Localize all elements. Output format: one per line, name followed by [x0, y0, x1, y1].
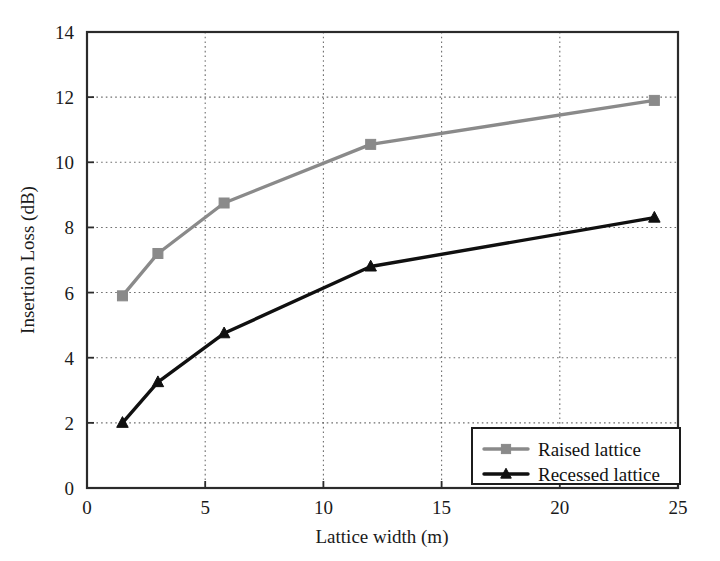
- y-tick-label: 8: [65, 217, 75, 238]
- x-tick-label: 0: [82, 497, 92, 518]
- line-chart: 02468101214 0510152025 Lattice width (m)…: [0, 0, 720, 561]
- x-axis-tick-labels: 0510152025: [82, 497, 687, 518]
- y-axis-tick-labels: 02468101214: [55, 22, 75, 499]
- data-point-marker: [501, 444, 510, 453]
- y-tick-label: 0: [65, 478, 75, 499]
- x-axis-title: Lattice width (m): [316, 526, 449, 548]
- x-tick-label: 10: [314, 497, 333, 518]
- chart-figure: 02468101214 0510152025 Lattice width (m)…: [0, 0, 720, 561]
- data-point-marker: [219, 198, 229, 208]
- y-tick-label: 4: [65, 348, 75, 369]
- y-tick-label: 12: [55, 87, 74, 108]
- x-tick-label: 15: [432, 497, 451, 518]
- y-tick-label: 2: [65, 413, 75, 434]
- data-point-marker: [117, 291, 127, 301]
- x-tick-label: 25: [669, 497, 688, 518]
- plot-area-background: [87, 32, 678, 488]
- y-tick-label: 6: [65, 283, 75, 304]
- x-tick-label: 5: [200, 497, 210, 518]
- y-axis-title: Insertion Loss (dB): [17, 186, 39, 334]
- x-tick-label: 20: [550, 497, 569, 518]
- data-point-marker: [649, 95, 659, 105]
- y-tick-label: 14: [55, 22, 75, 43]
- legend-label: Recessed lattice: [538, 464, 660, 485]
- y-tick-label: 10: [55, 152, 74, 173]
- data-point-marker: [153, 248, 163, 258]
- legend-label: Raised lattice: [538, 439, 641, 460]
- chart-legend: Raised latticeRecessed lattice: [472, 428, 680, 485]
- data-point-marker: [366, 139, 376, 149]
